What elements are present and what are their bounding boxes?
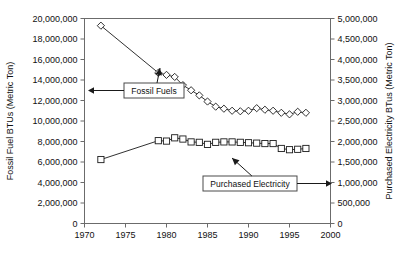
- right-tick-label: 2,500,000: [338, 116, 378, 126]
- data-point-marker: [295, 146, 301, 152]
- callout-label: Purchased Electricity: [210, 179, 290, 189]
- data-point-marker: [270, 140, 276, 146]
- data-point-marker: [180, 136, 186, 142]
- right-tick-label: 3,000,000: [338, 96, 378, 106]
- data-point-marker: [262, 140, 268, 146]
- right-tick-label: 1,500,000: [338, 157, 378, 167]
- x-tick-label: 1975: [115, 230, 135, 240]
- data-point-marker: [229, 139, 235, 145]
- left-tick-label: 6,000,000: [37, 157, 77, 167]
- right-tick-label: 3,500,000: [338, 75, 378, 85]
- data-point-marker: [196, 139, 202, 145]
- left-axis-title: Fossil Fuel BTUs (Metric Ton): [5, 62, 15, 180]
- data-point-marker: [204, 141, 210, 147]
- data-point-marker: [278, 145, 284, 151]
- data-point-marker: [188, 139, 194, 145]
- x-tick-label: 1980: [156, 230, 176, 240]
- data-point-marker: [245, 140, 251, 146]
- left-tick-label: 8,000,000: [37, 137, 77, 147]
- right-tick-label: 4,500,000: [338, 34, 378, 44]
- left-tick-label: 12,000,000: [32, 96, 77, 106]
- x-tick-label: 1970: [74, 230, 94, 240]
- data-point-marker: [172, 135, 178, 141]
- data-point-marker: [237, 139, 243, 145]
- right-axis-title: Purchased Electricity BTus (Metric Ton): [384, 42, 394, 199]
- left-tick-label: 2,000,000: [37, 198, 77, 208]
- right-tick-label: 0: [338, 219, 343, 229]
- right-tick-label: 5,000,000: [338, 14, 378, 24]
- data-point-marker: [163, 138, 169, 144]
- x-tick-label: 1995: [279, 230, 299, 240]
- left-tick-label: 0: [72, 219, 77, 229]
- data-point-marker: [98, 156, 104, 162]
- left-tick-label: 4,000,000: [37, 178, 77, 188]
- left-tick-label: 16,000,000: [32, 55, 77, 65]
- right-tick-label: 4,000,000: [338, 55, 378, 65]
- x-tick-label: 1985: [197, 230, 217, 240]
- data-point-marker: [221, 139, 227, 145]
- data-point-marker: [303, 145, 309, 151]
- x-tick-label: 2000: [320, 230, 340, 240]
- left-tick-label: 20,000,000: [32, 14, 77, 24]
- data-point-marker: [213, 139, 219, 145]
- chart-container: 02,000,0004,000,0006,000,0008,000,00010,…: [0, 0, 402, 261]
- right-tick-label: 2,000,000: [338, 137, 378, 147]
- callout-label: Fossil Fuels: [131, 86, 176, 96]
- right-tick-label: 500,000: [338, 198, 371, 208]
- x-tick-label: 1990: [238, 230, 258, 240]
- left-tick-label: 14,000,000: [32, 75, 77, 85]
- dual-axis-line-chart: 02,000,0004,000,0006,000,0008,000,00010,…: [0, 0, 402, 261]
- data-point-marker: [286, 147, 292, 153]
- right-tick-label: 1,000,000: [338, 178, 378, 188]
- left-tick-label: 10,000,000: [32, 116, 77, 126]
- left-tick-label: 18,000,000: [32, 34, 77, 44]
- data-point-marker: [254, 140, 260, 146]
- data-point-marker: [155, 138, 161, 144]
